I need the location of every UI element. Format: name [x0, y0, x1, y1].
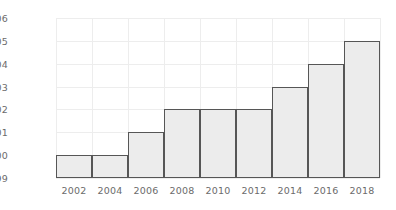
y-tick-label: 10004 — [0, 60, 8, 70]
y-tick-label: 9999 — [0, 174, 8, 184]
bar[interactable] — [272, 87, 308, 178]
y-tick-label: 10005 — [0, 37, 8, 47]
bar[interactable] — [164, 109, 200, 178]
x-tick-label: 2010 — [200, 186, 236, 196]
gridline-horizontal — [56, 178, 380, 179]
x-tick-label: 2014 — [272, 186, 308, 196]
y-tick-label: 10002 — [0, 105, 8, 115]
bar[interactable] — [200, 109, 236, 178]
x-tick-label: 2006 — [128, 186, 164, 196]
bar[interactable] — [308, 64, 344, 178]
bars-layer — [56, 18, 380, 178]
x-tick-label: 2016 — [308, 186, 344, 196]
x-tick-label: 2004 — [92, 186, 128, 196]
x-tick-label: 2018 — [344, 186, 380, 196]
y-tick-label: 10001 — [0, 128, 8, 138]
bar[interactable] — [128, 132, 164, 178]
x-tick-label: 2002 — [56, 186, 92, 196]
y-tick-label: 10000 — [0, 151, 8, 161]
y-tick-label: 10006 — [0, 14, 8, 24]
x-tick-label: 2012 — [236, 186, 272, 196]
bar[interactable] — [56, 155, 92, 178]
y-tick-label: 10003 — [0, 83, 8, 93]
x-tick-label: 2008 — [164, 186, 200, 196]
bar[interactable] — [92, 155, 128, 178]
gridline-vertical — [380, 18, 381, 178]
bar[interactable] — [344, 41, 380, 178]
plot-area — [56, 18, 380, 178]
bar[interactable] — [236, 109, 272, 178]
bar-chart: 999910000100011000210003100041000510006 … — [0, 0, 396, 210]
